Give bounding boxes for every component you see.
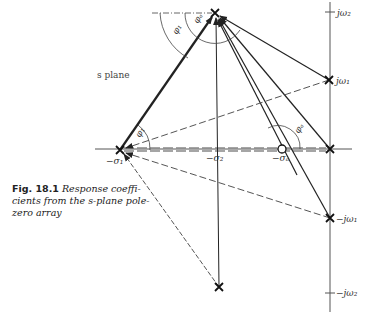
pole-markers	[116, 9, 334, 291]
label-jw1: jω₁	[334, 76, 350, 86]
vector-jw1-top	[220, 16, 329, 80]
label-neg-jw2: −jω₂	[336, 288, 358, 298]
caption-line-2: cients from the s-plane pole-	[12, 195, 150, 206]
pole-sigma1-icon	[116, 146, 124, 154]
label-neg-jw1: −jω₁	[336, 214, 357, 224]
label-phia-top: φₐ	[191, 12, 205, 25]
plane-label: s plane	[97, 70, 130, 80]
label-phi1-top: φ₁	[170, 22, 184, 36]
dashed-vector-bottom	[124, 154, 219, 287]
pole-top-icon	[211, 9, 219, 17]
dashed-vector-jw1	[126, 80, 329, 148]
vector-origin-top	[220, 18, 330, 149]
label-phia-right: φₐ	[292, 122, 306, 135]
pole-jw1-icon	[325, 76, 333, 84]
caption-line-1: Response coeffi-	[62, 183, 141, 194]
vector-sigma1-top	[120, 17, 212, 150]
vector-negjw1-top	[219, 19, 330, 218]
arc-phi1-top	[160, 13, 188, 58]
zero-sigma-a-icon	[278, 145, 286, 153]
caption-line-3: zero array	[12, 207, 62, 218]
label-jw2: jω₂	[335, 8, 351, 18]
figure-number: Fig. 18.1	[12, 183, 59, 194]
label-neg-sigma1: −σ₁	[106, 156, 123, 166]
s-plane-diagram: s plane jω₂ jω₁ −jω₁ −jω₂ −σ₁ −σ₂ −σₐ φ₁…	[0, 0, 370, 316]
label-neg-sigma2: −σ₂	[206, 153, 224, 163]
figure-caption: Fig. 18.1 Response coeffi- cients from t…	[12, 183, 184, 219]
label-neg-sigma-a: −σₐ	[272, 153, 289, 163]
